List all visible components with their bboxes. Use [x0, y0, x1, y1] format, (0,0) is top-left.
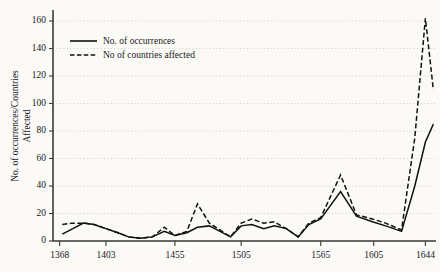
- y-axis-title-line2: Affected: [22, 109, 32, 142]
- x-tick-label: 1605: [364, 250, 383, 260]
- y-tick-label: 20: [37, 208, 47, 218]
- x-tick-label: 1565: [311, 250, 330, 260]
- legend-label-occurrences: No. of occurrences: [103, 36, 175, 46]
- y-tick-label: 100: [32, 98, 47, 108]
- x-tick-label: 1455: [165, 250, 184, 260]
- legend-label-countries-affected: No of countries affected: [103, 50, 195, 60]
- y-tick-label: 160: [32, 15, 47, 25]
- x-tick-label: 1403: [97, 250, 116, 260]
- y-tick-label: 80: [37, 125, 47, 135]
- chart-legend: No. of occurrences No of countries affec…: [70, 36, 195, 60]
- y-tick-label: 120: [32, 70, 47, 80]
- y-tick-label: 40: [37, 180, 47, 190]
- x-tick-label: 1644: [416, 250, 435, 260]
- y-axis-title-line1: No. of occurrences/Countries: [10, 70, 20, 182]
- y-axis-ticks: 020406080100120140160: [32, 15, 53, 245]
- x-tick-label: 1505: [232, 250, 251, 260]
- y-tick-label: 60: [37, 153, 47, 163]
- y-tick-label: 140: [32, 43, 47, 53]
- x-axis-ticks: 1368140314551505156516051644: [50, 241, 435, 260]
- x-tick-label: 1368: [50, 250, 69, 260]
- line-chart: 020406080100120140160 136814031455150515…: [0, 0, 440, 272]
- chart-container: 020406080100120140160 136814031455150515…: [0, 0, 440, 272]
- y-axis-title: No. of occurrences/Countries Affected: [10, 70, 32, 182]
- y-tick-label: 0: [41, 235, 46, 245]
